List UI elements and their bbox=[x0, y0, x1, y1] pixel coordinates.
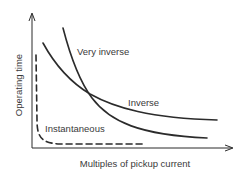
x-axis-label: Multiples of pickup current bbox=[80, 158, 191, 169]
label-instantaneous: Instantaneous bbox=[45, 123, 105, 134]
label-inverse: Inverse bbox=[128, 97, 159, 108]
curve-very-inverse bbox=[63, 28, 207, 138]
relay-characteristics-diagram: Very inverse Inverse Instantaneous Multi… bbox=[0, 0, 246, 173]
label-very-inverse: Very inverse bbox=[77, 46, 129, 57]
curve-inverse bbox=[43, 43, 217, 120]
y-axis-label: Operating time bbox=[13, 54, 24, 116]
